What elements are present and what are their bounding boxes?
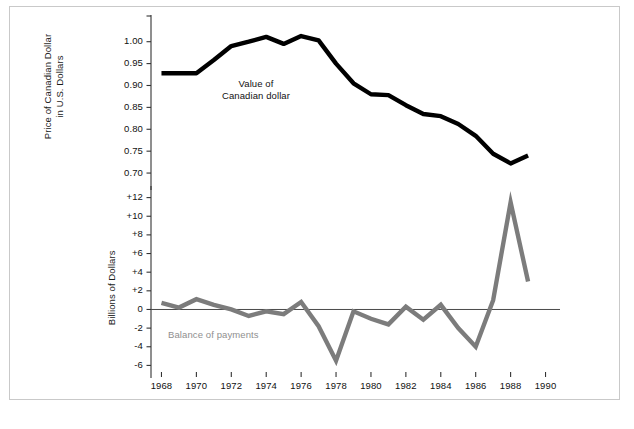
series-line-balance-of-payments: [161, 202, 528, 360]
x-axis: [161, 372, 545, 377]
panel-top: [147, 15, 529, 190]
chart-figure: Price of Canadian Dollar in U.S. Dollars…: [0, 0, 634, 429]
panel-bottom: [147, 186, 561, 378]
chart-plot-area: [0, 0, 634, 429]
series-line-canadian-dollar: [161, 36, 528, 163]
